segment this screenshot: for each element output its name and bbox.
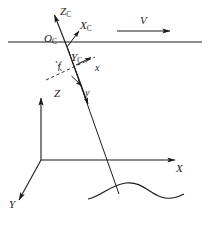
camera-z-axis-label: ZC [60,6,71,19]
world-y-axis [19,160,41,200]
image-x-axis-label: x [95,63,99,73]
image-y-axis-label: y [85,88,89,98]
world-y-axis-label: Y [9,199,15,210]
diagram-canvas [0,0,208,225]
camera-x-axis [67,31,79,47]
velocity-label: V [140,15,147,26]
terrain-profile-curve [88,183,184,199]
camera-x-axis-label: XC [80,20,92,33]
camera-origin-label: OC [44,33,57,46]
world-z-axis-label: Z [54,88,60,99]
focal-length-label: f [58,61,61,71]
world-x-axis-label: X [176,163,183,174]
camera-geometry-diagram: ZC XC OC YC f x y V Z X Y [0,0,208,225]
camera-y-axis-label: YC [71,52,82,65]
principal-ray [68,48,120,194]
